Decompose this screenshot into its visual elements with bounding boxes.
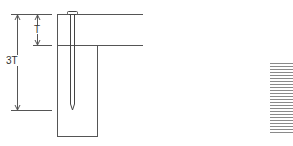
vertical-post — [57, 14, 98, 137]
label-t: T — [34, 24, 40, 35]
top-board — [57, 15, 143, 46]
hatched-swatch — [270, 64, 293, 133]
nailing-diagram: 3T T — [0, 0, 293, 146]
label-3t: 3T — [6, 55, 18, 66]
nail-icon — [68, 12, 78, 111]
